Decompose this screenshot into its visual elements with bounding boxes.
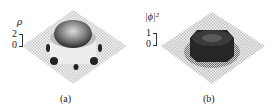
y-label-rho: ρ [17,16,22,27]
panel-b: |ϕ|² 1 0 (b) [137,0,274,110]
tick-top: 1 [146,28,151,38]
y-label-phi-squared: |ϕ|² [145,11,159,22]
scale-bracket [19,34,23,47]
tick-bottom: 0 [12,40,17,50]
caption-b: (b) [203,94,215,104]
panel-a: ρ 2 0 (a) [0,0,137,110]
tick-top: 2 [12,29,17,39]
tick-bottom: 0 [146,39,151,49]
caption-a: (a) [60,94,71,104]
scale-bracket [153,33,157,46]
